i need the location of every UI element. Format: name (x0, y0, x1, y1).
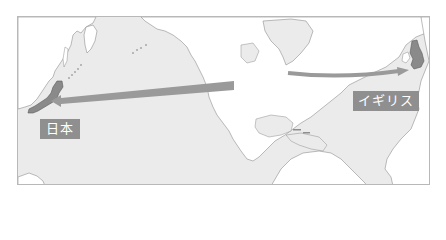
label-uk: イギリス (353, 91, 419, 111)
label-japan: 日本 (40, 119, 80, 139)
